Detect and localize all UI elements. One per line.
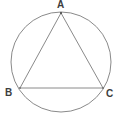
side-CA (61, 13, 103, 88)
vertex-point-c (102, 87, 104, 89)
geometry-canvas (0, 0, 122, 123)
circumscribed-circle (11, 12, 111, 112)
vertex-label-a: A (57, 0, 64, 10)
geometry-figure: A B C (0, 0, 122, 123)
vertex-label-c: C (106, 89, 113, 99)
vertex-point-a (60, 12, 62, 14)
side-AB (20, 13, 61, 88)
vertex-label-b: B (5, 88, 12, 98)
vertex-point-b (19, 87, 21, 89)
